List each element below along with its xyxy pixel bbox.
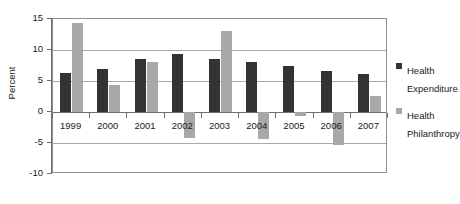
y-tick-label: -10 <box>29 168 43 178</box>
bar-philanthropy-2000 <box>109 85 120 112</box>
y-tick-label: -5 <box>35 137 43 147</box>
bar-philanthropy-2007 <box>370 96 381 112</box>
bar-philanthropy-1999 <box>72 23 83 112</box>
y-tick-label: 10 <box>32 44 43 54</box>
bars <box>53 19 386 172</box>
x-tick-mark <box>164 113 165 118</box>
y-axis-title: Percent <box>7 53 17 113</box>
bar-expenditure-1999 <box>60 73 71 112</box>
x-tick-mark <box>350 113 351 118</box>
legend-swatch-icon <box>396 108 402 114</box>
x-tick-label: 2003 <box>201 121 238 131</box>
x-tick-mark <box>313 113 314 118</box>
x-tick-label: 1999 <box>52 121 89 131</box>
plot-area <box>52 18 387 173</box>
bar-expenditure-2000 <box>97 69 108 112</box>
y-tick-mark <box>47 173 52 174</box>
x-tick-mark <box>126 113 127 118</box>
x-tick-label: 2004 <box>238 121 275 131</box>
bar-expenditure-2004 <box>246 62 257 112</box>
x-tick-mark <box>238 113 239 118</box>
bar-philanthropy-2001 <box>147 62 158 112</box>
bar-expenditure-2006 <box>321 71 332 112</box>
y-tick-label: 5 <box>38 75 43 85</box>
bar-chart: Percent 151050-5-10 19992000200120022003… <box>0 0 460 204</box>
bar-philanthropy-2003 <box>221 31 232 112</box>
x-axis: 199920002001200220032004200520062007 <box>52 113 387 143</box>
legend-swatch-icon <box>396 63 402 69</box>
x-tick-label: 2007 <box>350 121 387 131</box>
bar-expenditure-2003 <box>209 59 220 112</box>
legend-item: Health Philanthropy <box>396 105 460 141</box>
bar-expenditure-2007 <box>358 74 369 112</box>
bar-expenditure-2005 <box>283 66 294 112</box>
x-tick-label: 2001 <box>126 121 163 131</box>
x-tick-mark <box>52 113 53 118</box>
x-tick-label: 2006 <box>313 121 350 131</box>
x-tick-mark <box>387 113 388 118</box>
legend-label: Health Philanthropy <box>407 110 460 139</box>
x-tick-label: 2000 <box>89 121 126 131</box>
legend-item: Health Expenditure <box>396 60 460 96</box>
bar-expenditure-2002 <box>172 54 183 112</box>
legend-label: Health Expenditure <box>407 65 458 94</box>
bar-expenditure-2001 <box>135 59 146 112</box>
y-tick-label: 0 <box>38 106 43 116</box>
x-tick-mark <box>89 113 90 118</box>
y-axis: Percent 151050-5-10 <box>0 0 52 204</box>
chart-legend: Health Expenditure Health Philanthropy <box>396 60 460 150</box>
x-tick-mark <box>275 113 276 118</box>
y-tick-label: 15 <box>32 13 43 23</box>
x-tick-mark <box>201 113 202 118</box>
x-tick-label: 2002 <box>164 121 201 131</box>
x-tick-label: 2005 <box>275 121 312 131</box>
